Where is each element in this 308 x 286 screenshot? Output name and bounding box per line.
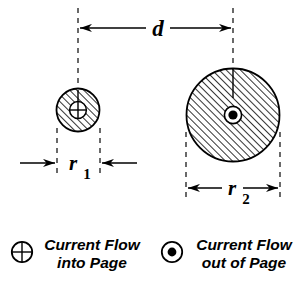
figure-root: d r 1	[0, 0, 308, 286]
dimension-radius-r1: r 1	[20, 151, 137, 182]
legend-item-out-of-page: Current Flow out of Page	[162, 236, 293, 271]
dimension-label-r1: r	[69, 151, 78, 175]
legend-into-page-line1: Current Flow	[44, 236, 141, 253]
dimension-separation-d: d	[80, 16, 231, 41]
circle-dot-icon-center-dot	[168, 248, 177, 257]
large-conductor	[187, 69, 280, 162]
legend-out-of-page-line1: Current Flow	[196, 236, 293, 253]
dimension-radius-r2: r 2	[188, 176, 278, 207]
dimension-label-r2: r	[228, 176, 237, 200]
dimension-label-r2-subscript: 2	[242, 191, 250, 207]
legend-into-page-line2: into Page	[57, 254, 127, 271]
large-conductor-symbol-dot	[228, 110, 237, 119]
small-conductor	[57, 89, 100, 132]
legend-item-into-page: Current Flow into Page	[12, 236, 141, 271]
current-flow-diagram: d r 1	[0, 0, 308, 286]
legend-out-of-page-line2: out of Page	[202, 254, 287, 271]
dimension-label-r1-subscript: 1	[83, 166, 91, 182]
dimension-label-d: d	[152, 16, 164, 41]
